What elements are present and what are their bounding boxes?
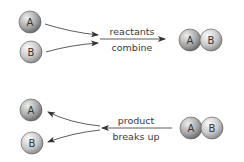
atom-label: B — [29, 138, 36, 149]
atom-label: A — [187, 35, 194, 46]
result-atom-a: A — [20, 99, 42, 121]
arrow-line-to-b — [48, 130, 100, 142]
reactant-atom-a: A — [19, 11, 41, 33]
arrow-b-to-line — [46, 43, 98, 52]
breakup-reaction: A B A B — [20, 99, 223, 154]
atom-label: A — [188, 123, 195, 134]
result-atom-b: B — [21, 132, 43, 154]
atom-label: A — [27, 17, 34, 28]
product-molecule: A B — [179, 29, 222, 51]
arrow-a-to-line — [45, 24, 98, 35]
atom-label: B — [209, 123, 216, 134]
combine-label-below: combine — [97, 42, 167, 53]
reactant-atom-b: B — [20, 41, 42, 63]
breakup-label-below: breaks up — [101, 131, 171, 142]
atom-label: B — [208, 35, 215, 46]
breakup-label-above: product — [101, 115, 171, 126]
atom-label: A — [28, 105, 35, 116]
source-molecule: A B — [180, 117, 223, 139]
combine-reaction: A B A B — [19, 11, 222, 63]
atom-label: B — [28, 47, 35, 58]
arrow-line-to-a — [48, 112, 100, 126]
combine-label-above: reactants — [97, 26, 167, 37]
